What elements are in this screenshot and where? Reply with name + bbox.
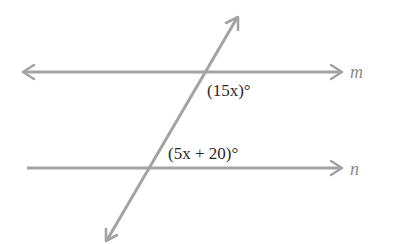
parallel-lines-diagram: m n (15x)° (5x + 20)°	[0, 0, 394, 244]
line-m-label: m	[350, 62, 363, 82]
line-m	[23, 65, 342, 79]
angle-label-5x-plus-20: (5x + 20)°	[168, 144, 238, 163]
line-n-label: n	[350, 159, 359, 179]
transversal-line	[106, 17, 238, 241]
line-n	[27, 161, 342, 175]
angle-label-15x: (15x)°	[207, 81, 251, 100]
